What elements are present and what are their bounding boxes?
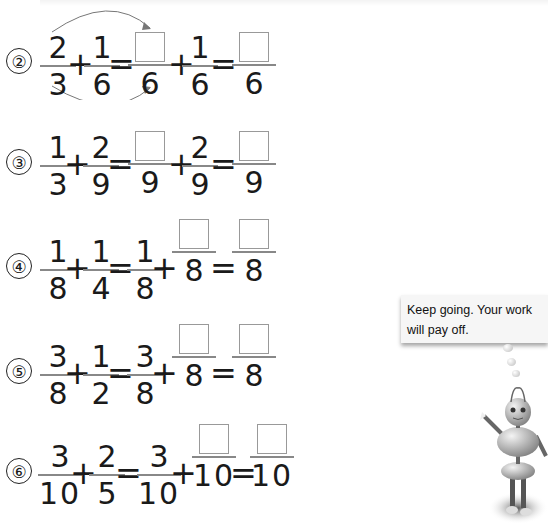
problem-6: ⑥ 310 + 25 = 310 + 10 = 10 (0, 458, 290, 526)
thought-dot (503, 344, 513, 352)
answer-box[interactable] (135, 131, 165, 161)
thought-dot (507, 358, 516, 366)
denominator: 6 (232, 69, 276, 99)
answer-box[interactable] (239, 32, 269, 62)
problem-4: ④ 18 + 14 = 18 + 8 = 8 (0, 237, 290, 307)
robot-mascot-icon (458, 376, 548, 526)
fraction-result: 8 (232, 324, 276, 391)
answer-box[interactable] (239, 324, 269, 354)
problem-5: ⑤ 38 + 12 = 38 + 8 = 8 (0, 350, 290, 420)
denominator: 9 (128, 168, 172, 198)
fraction-result: 9 (232, 131, 276, 198)
answer-box[interactable] (257, 424, 287, 454)
answer-box[interactable] (179, 219, 209, 249)
answer-box[interactable] (239, 131, 269, 161)
answer-box[interactable] (239, 219, 269, 249)
answer-box[interactable] (135, 32, 165, 62)
fraction-result: 8 (232, 219, 276, 286)
problem-2: ② 23 + 16 = 6 + 16 = 6 (0, 22, 290, 92)
denominator: 10 (250, 461, 294, 491)
answer-box[interactable] (199, 424, 229, 454)
problem-number: ⑤ (6, 358, 32, 384)
fraction-result: 10 (250, 424, 294, 491)
fraction-blank-1: 6 (128, 32, 172, 99)
problem-3: ③ 13 + 29 = 9 + 29 = 9 (0, 133, 290, 203)
top-shadow-band (40, 0, 548, 6)
answer-box[interactable] (179, 324, 209, 354)
denominator: 6 (128, 69, 172, 99)
denominator: 8 (232, 361, 276, 391)
problem-number: ② (6, 48, 32, 74)
denominator: 9 (232, 168, 276, 198)
denominator: 8 (232, 256, 276, 286)
problem-number: ④ (6, 253, 32, 279)
problem-number: ③ (6, 149, 32, 175)
problem-number: ⑥ (6, 458, 32, 484)
speech-bubble: Keep going. Your work will pay off. (401, 295, 548, 343)
fraction-result: 6 (232, 32, 276, 99)
fraction-blank-1: 9 (128, 131, 172, 198)
